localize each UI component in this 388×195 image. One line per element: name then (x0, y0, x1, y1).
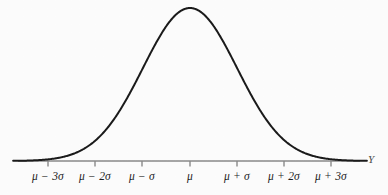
x-axis-tick-label: μ − 3σ (32, 171, 64, 183)
y-axis-label: Y (368, 154, 374, 165)
x-axis-tick-label: μ + 2σ (268, 171, 300, 183)
x-axis-tick-label: μ − 2σ (79, 171, 111, 183)
axis-tick-marks (48, 161, 331, 167)
distribution-plot (0, 0, 388, 195)
x-axis-tick-label: μ + 3σ (315, 171, 347, 183)
bell-curve-path (13, 8, 367, 161)
x-axis-tick-label: μ − σ (129, 171, 155, 183)
x-axis-tick-label: μ + σ (224, 171, 250, 183)
x-axis-tick-label: μ (187, 171, 193, 183)
normal-distribution-figure: μ − 3σμ − 2σμ − σμμ + σμ + 2σμ + 3σ Y (0, 0, 388, 195)
